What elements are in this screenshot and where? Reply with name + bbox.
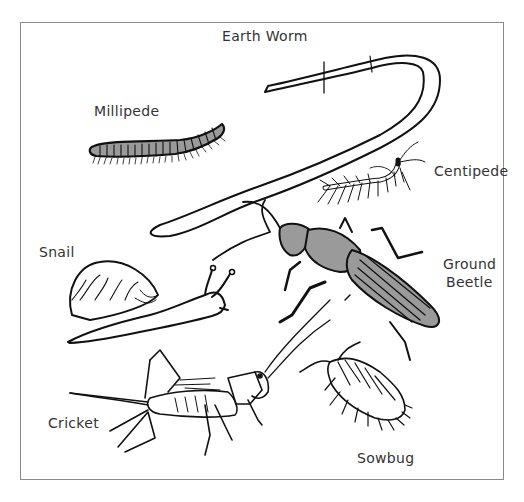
label-sowbug: Sowbug bbox=[357, 450, 414, 466]
label-centipede: Centipede bbox=[434, 163, 508, 179]
label-cricket: Cricket bbox=[48, 415, 99, 431]
ground-beetle-drawing bbox=[213, 200, 439, 360]
sowbug-drawing bbox=[300, 342, 412, 430]
label-ground-beetle-line2: Beetle bbox=[446, 274, 493, 290]
label-millipede: Millipede bbox=[94, 103, 159, 119]
label-ground-beetle-line1: Ground bbox=[443, 256, 496, 272]
millipede-drawing bbox=[90, 124, 225, 164]
cricket-drawing bbox=[70, 300, 330, 455]
snail-drawing bbox=[68, 261, 235, 343]
label-snail: Snail bbox=[39, 244, 75, 260]
label-earthworm: Earth Worm bbox=[222, 28, 308, 44]
